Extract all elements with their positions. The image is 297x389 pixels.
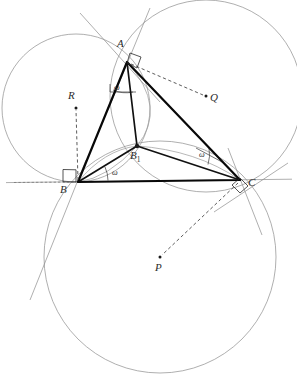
- label-point-B1: B1: [130, 150, 140, 164]
- right-angle-at-B: [63, 170, 76, 183]
- point-dots: [75, 95, 208, 259]
- tangent-at-A-to-circle-Q: [80, 13, 160, 102]
- label-omega-at-B: ω: [112, 169, 118, 177]
- angle-arc-at-B: [105, 167, 108, 181]
- label-omega-at-C: ω: [199, 151, 205, 159]
- label-point-B: B: [60, 184, 67, 195]
- angle-arc-at-C: [208, 148, 210, 165]
- label-point-A: A: [117, 38, 124, 49]
- label-point-R: R: [68, 90, 75, 101]
- label-omega-at-A: ω: [114, 84, 120, 92]
- geometry-figure: A B C B1 P Q R ω ω ω: [0, 0, 297, 389]
- dot-R: [75, 107, 78, 110]
- label-point-P: P: [155, 262, 162, 273]
- dot-Q: [205, 95, 208, 98]
- dot-B1: [135, 144, 139, 148]
- label-point-C: C: [248, 177, 255, 188]
- geometry-canvas: [0, 0, 297, 389]
- label-point-B1-subscript: 1: [137, 155, 141, 164]
- right-angle-marks: [63, 53, 248, 193]
- radius-A-Q: [131, 64, 203, 95]
- radius-C-P: [162, 183, 238, 255]
- triangle-ABC: [78, 62, 240, 182]
- dot-P: [159, 256, 162, 259]
- label-point-Q: Q: [210, 92, 218, 103]
